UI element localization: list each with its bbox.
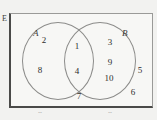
venn-element-10: 10 <box>103 74 115 83</box>
venn-diagram-figure: E A B 28143910756 aa <box>0 0 157 120</box>
clipped-glyph: a <box>38 112 42 115</box>
universal-set-label: E <box>2 15 7 23</box>
set-label-b: B <box>122 29 128 38</box>
venn-element-4: 4 <box>71 67 83 76</box>
venn-element-7: 7 <box>73 92 85 101</box>
venn-element-9: 9 <box>104 58 116 67</box>
clipped-glyph: a <box>108 112 112 115</box>
venn-element-2: 2 <box>38 36 50 45</box>
venn-element-6: 6 <box>127 88 139 97</box>
venn-element-5: 5 <box>134 66 146 75</box>
clipped-caption-row: aa <box>9 112 153 120</box>
venn-element-3: 3 <box>104 38 116 47</box>
venn-element-8: 8 <box>34 66 46 75</box>
venn-element-1: 1 <box>71 42 83 51</box>
